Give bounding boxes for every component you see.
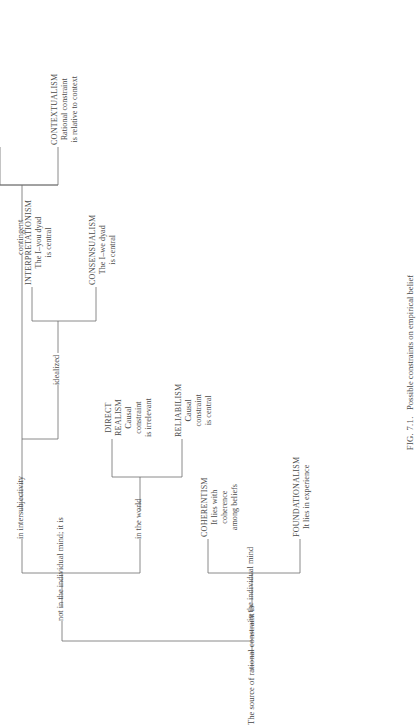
leaf-sub-direct-realism-line2: constraint — [134, 398, 144, 437]
branch-label-individual-mind: in the individual mind — [246, 547, 255, 621]
leaf-node-direct-realism: DIRECT REALISM Causal constraint is irre… — [104, 398, 154, 437]
figure-caption-text: Possible constraints on empirical belief — [405, 275, 415, 410]
leaf-title-coherentism: COHERENTISM — [200, 477, 210, 537]
tree-diagram: The source of rational constraint is in … — [0, 0, 380, 725]
leaf-title-foundationalism: FOUNDATIONALISM — [292, 457, 302, 537]
root-label: The source of rational constraint is — [246, 605, 256, 725]
leaf-node-contextualism: CONTEXTUALISM Rational constraint is rel… — [50, 74, 80, 145]
leaf-title-communitarianism: COMMUNITARIANISM — [0, 57, 2, 145]
leaf-title-reliabilism: RELIABILISM — [174, 384, 184, 437]
leaf-node-communitarianism: COMMUNITARIANISM — [0, 57, 2, 145]
leaf-sub-interpretationism-line2: is central — [44, 200, 54, 285]
leaf-node-interpretationism: INTERPRETATIONISM The I–you dyad is cent… — [24, 200, 54, 285]
leaf-sub-contextualism-line1: Rational constraint — [60, 74, 70, 145]
figure-number: Fig. 7.1. — [405, 416, 415, 450]
leaf-title-contextualism: CONTEXTUALISM — [50, 74, 60, 145]
leaf-sub-consensualism-line2: is central — [108, 214, 118, 285]
leaf-node-consensualism: CONSENSUALISM The I–we dyad is central — [88, 214, 118, 285]
leaf-sub-coherentism-line2: coherence — [220, 477, 230, 537]
leaf-sub-direct-realism-line3: is irrelevant — [144, 398, 154, 437]
branch-label-in-the-world: in the world — [134, 499, 143, 539]
leaf-sub-contextualism-line2: is relative to context — [70, 74, 80, 145]
leaf-node-reliabilism: RELIABILISM Causal constraint is central — [174, 384, 214, 437]
leaf-sub-reliabilism-line1: Causal — [184, 384, 194, 437]
branch-label-idealized: idealized — [52, 355, 61, 385]
leaf-sub-foundationalism-line1: It lies in experience — [302, 457, 312, 537]
leaf-title-direct-realism-line1: DIRECT — [104, 398, 114, 437]
leaf-sub-coherentism-line3: among beliefs — [230, 477, 240, 537]
leaf-sub-coherentism-line1: It lies with — [210, 477, 220, 537]
figure-rotation-wrapper: The source of rational constraint is in … — [0, 0, 419, 725]
branch-label-in-intersubjectivity: in intersubjectivity — [16, 476, 25, 539]
leaf-title-direct-realism-line2: REALISM — [114, 398, 124, 437]
leaf-sub-reliabilism-line2: constraint — [194, 384, 204, 437]
leaf-node-coherentism: COHERENTISM It lies with coherence among… — [200, 477, 240, 537]
leaf-sub-direct-realism-line1: Causal — [124, 398, 134, 437]
branch-label-not-individual-mind: not in the individual mind; it is — [56, 517, 65, 621]
leaf-title-interpretationism: INTERPRETATIONISM — [24, 200, 34, 285]
leaf-sub-consensualism-line1: The I–we dyad — [98, 214, 108, 285]
leaf-sub-reliabilism-line3: is central — [204, 384, 214, 437]
leaf-title-consensualism: CONSENSUALISM — [88, 214, 98, 285]
figure-caption: Fig. 7.1. Possible constraints on empiri… — [405, 0, 415, 725]
leaf-node-foundationalism: FOUNDATIONALISM It lies in experience — [292, 457, 312, 537]
leaf-sub-interpretationism-line1: The I–you dyad — [34, 200, 44, 285]
